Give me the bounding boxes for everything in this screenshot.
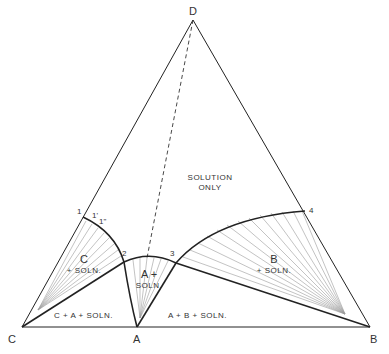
vertex-label-d: D <box>189 5 197 17</box>
region-c-solid-line2: + SOLN. <box>67 266 101 275</box>
region-solution-only-line2: ONLY <box>198 183 221 192</box>
line-2-a <box>124 262 137 327</box>
vertex-label-a: A <box>133 333 141 345</box>
dashed-join-line <box>147 20 193 258</box>
tie-lines-b <box>183 211 345 314</box>
point-label-1-prime: 1' <box>92 211 98 220</box>
point-label-4: 4 <box>309 206 314 215</box>
vertex-label-b: B <box>370 333 377 345</box>
region-a-solid-line2: SOLN. <box>136 281 163 290</box>
region-solution-only-line1: SOLUTION <box>188 173 233 182</box>
vertex-label-c: C <box>8 333 16 345</box>
edge-c-d <box>22 20 193 327</box>
ternary-diagram: D C A B 1 1' 1" 2 3 4 SOLUTION ONLY C + … <box>0 0 389 354</box>
region-b-solid-line1: B <box>270 253 277 265</box>
point-label-1: 1 <box>77 207 82 216</box>
region-a-b-three-phase: A + B + SOLN. <box>168 311 227 320</box>
region-c-solid-line1: C <box>80 253 88 265</box>
region-a-solid-line1: A + <box>141 268 157 280</box>
region-b-solid-line2: + SOLN. <box>257 266 291 275</box>
region-c-a-three-phase: C + A + SOLN. <box>54 311 113 320</box>
point-label-3: 3 <box>170 249 175 258</box>
point-label-1-double-prime: 1" <box>99 217 106 226</box>
point-label-2: 2 <box>122 249 127 258</box>
curve-2-3 <box>124 256 176 263</box>
